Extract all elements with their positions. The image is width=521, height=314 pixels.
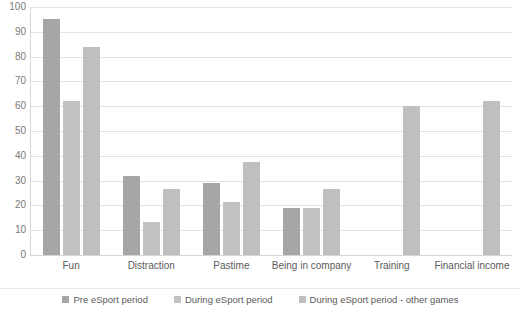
legend-swatch-icon: [299, 296, 306, 303]
bar-group: [352, 7, 432, 255]
bar: [163, 189, 180, 255]
bar: [43, 19, 60, 255]
legend-label: During eSport period - other games: [310, 294, 459, 305]
y-axis-tick-label: 40: [0, 151, 26, 161]
legend-label: During eSport period: [185, 294, 273, 305]
legend-swatch-icon: [62, 296, 69, 303]
bar-group: [191, 7, 271, 255]
bar: [303, 208, 320, 255]
bar-groups: [31, 7, 512, 255]
bar: [223, 202, 240, 255]
y-axis-tick-labels: 1009080706050403020100: [0, 0, 26, 262]
y-axis-tick-label: 70: [0, 76, 26, 86]
bar: [83, 47, 100, 255]
bar-chart: 1009080706050403020100 FunDistractionPas…: [0, 0, 521, 314]
bar: [63, 101, 80, 255]
x-axis-category-label: Fun: [31, 260, 111, 271]
bar-group: [432, 7, 512, 255]
bar: [283, 208, 300, 255]
x-axis-category-label: Financial income: [432, 260, 512, 271]
x-axis-category-label: Being in company: [272, 260, 352, 271]
bar: [323, 189, 340, 255]
legend-item[interactable]: During eSport period: [174, 294, 273, 305]
y-axis-tick-label: 80: [0, 52, 26, 62]
x-axis-category-label: Training: [352, 260, 432, 271]
y-axis-tick-label: 20: [0, 200, 26, 210]
bar: [123, 176, 140, 255]
legend-label: Pre eSport period: [73, 294, 147, 305]
x-axis-category-label: Distraction: [111, 260, 191, 271]
y-axis-tick-label: 30: [0, 176, 26, 186]
bar-group: [111, 7, 191, 255]
legend-swatch-icon: [174, 296, 181, 303]
y-axis-tick-label: 50: [0, 126, 26, 136]
legend-item[interactable]: Pre eSport period: [62, 294, 147, 305]
x-axis-category-label: Pastime: [191, 260, 271, 271]
bar-group: [31, 7, 111, 255]
x-axis-category-labels: FunDistractionPastimeBeing in companyTra…: [31, 260, 512, 271]
bar: [403, 106, 420, 255]
y-axis-tick-label: 100: [0, 2, 26, 12]
y-axis-tick-label: 60: [0, 101, 26, 111]
chart-legend: Pre eSport periodDuring eSport periodDur…: [0, 288, 521, 305]
bar: [483, 101, 500, 255]
bar-group: [272, 7, 352, 255]
axis-baseline: [30, 255, 512, 256]
bar: [203, 183, 220, 255]
bar: [243, 162, 260, 255]
y-axis-tick-label: 90: [0, 27, 26, 37]
bar: [143, 222, 160, 255]
y-axis-tick-label: 10: [0, 225, 26, 235]
y-axis-tick-label: 0: [0, 250, 26, 260]
legend-item[interactable]: During eSport period - other games: [299, 294, 459, 305]
